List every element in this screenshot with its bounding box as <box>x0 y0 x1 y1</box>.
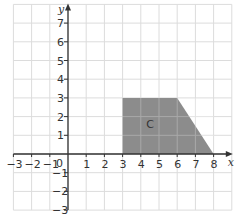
x-tick-label: 6 <box>174 158 181 171</box>
y-tick-label: 6 <box>57 36 64 49</box>
origin-label: 0 <box>56 157 63 170</box>
tick-labels: −3−2−112345678−3−2−112345670xy <box>6 3 234 217</box>
x-axis-label: x <box>228 156 235 169</box>
y-tick-label: 2 <box>57 111 64 124</box>
shape-c <box>123 98 214 154</box>
y-tick-label: 3 <box>57 92 64 105</box>
y-tick-label: −2 <box>52 185 68 198</box>
shapes-layer: C <box>123 98 214 154</box>
x-tick-label: −2 <box>25 158 41 171</box>
x-tick-label: 8 <box>211 158 218 171</box>
x-tick-label: 3 <box>120 158 127 171</box>
x-tick-label: −3 <box>6 158 22 171</box>
x-tick-label: 7 <box>192 158 199 171</box>
x-tick-label: 1 <box>83 158 90 171</box>
y-tick-label: −3 <box>52 204 68 217</box>
x-tick-label: 2 <box>101 158 108 171</box>
y-tick-label: 4 <box>57 73 64 86</box>
x-tick-label: 4 <box>138 158 145 171</box>
y-tick-label: 5 <box>57 55 64 68</box>
x-tick-label: 5 <box>156 158 163 171</box>
y-tick-label: 1 <box>57 129 64 142</box>
y-axis-label: y <box>57 3 65 16</box>
y-tick-label: 7 <box>57 17 64 30</box>
shape-label: C <box>146 118 154 131</box>
coordinate-grid: C −3−2−112345678−3−2−112345670xy <box>0 0 237 222</box>
